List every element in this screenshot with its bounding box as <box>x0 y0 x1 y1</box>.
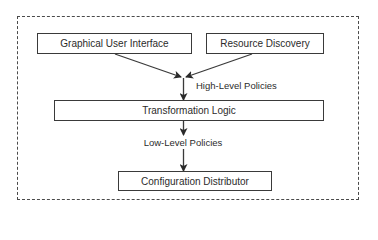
node-label: Configuration Distributor <box>141 176 249 187</box>
node-label: Resource Discovery <box>220 38 309 49</box>
node-graphical-user-interface: Graphical User Interface <box>37 33 192 54</box>
node-resource-discovery: Resource Discovery <box>206 33 324 54</box>
edge-label-low-level-policies: Low-Level Policies <box>144 137 223 148</box>
node-label: Graphical User Interface <box>60 38 168 49</box>
node-configuration-distributor: Configuration Distributor <box>118 171 272 191</box>
node-transformation-logic: Transformation Logic <box>54 100 324 121</box>
edge-label-high-level-policies: High-Level Policies <box>196 80 277 91</box>
node-label: Transformation Logic <box>142 105 236 116</box>
